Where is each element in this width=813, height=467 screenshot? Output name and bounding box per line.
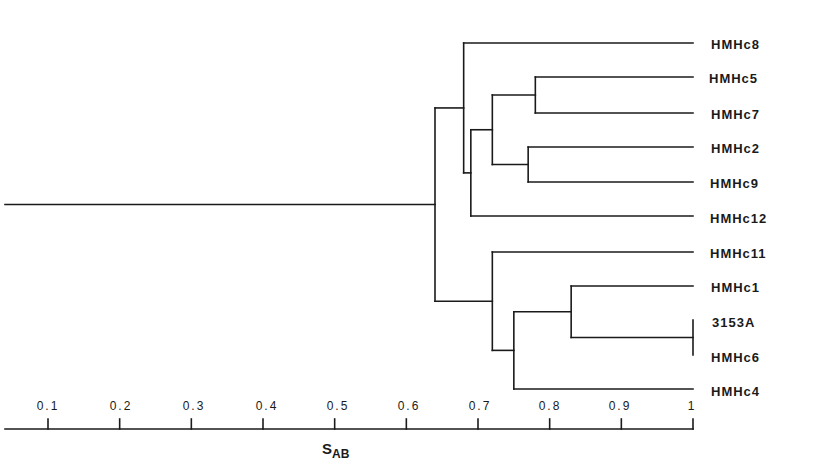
tick-label-0.4: 0.4 (256, 399, 279, 413)
leaf-label-3153a: 3153A (712, 315, 755, 330)
leaf-label-hmhc8: HMHc8 (711, 37, 760, 52)
tick-label-0.5: 0.5 (327, 399, 350, 413)
tick-label-1: 1 (688, 399, 697, 413)
x-axis-title-subscript: AB (332, 447, 349, 461)
tick-label-0.8: 0.8 (539, 399, 562, 413)
leaf-label-hmhc4: HMHc4 (711, 384, 760, 399)
dendrogram-tree (0, 0, 813, 467)
leaf-label-hmhc6: HMHc6 (711, 350, 760, 365)
leaf-label-hmhc9: HMHc9 (710, 176, 759, 191)
leaf-label-hmhc5: HMHc5 (709, 71, 758, 86)
dendrogram-chart: 0.1 0.2 0.3 0.4 0.5 0.6 0.7 0.8 0.9 1 HM… (0, 0, 813, 467)
x-axis-title-main: S (322, 440, 332, 457)
x-axis-title: SAB (322, 440, 349, 461)
tick-label-0.2: 0.2 (110, 399, 133, 413)
tick-label-0.9: 0.9 (609, 399, 632, 413)
leaf-label-hmhc1: HMHc1 (711, 280, 760, 295)
leaf-label-hmhc12: HMHc12 (710, 211, 767, 226)
tick-label-0.3: 0.3 (183, 399, 206, 413)
leaf-label-hmhc11: HMHc11 (710, 246, 767, 261)
leaf-label-hmhc2: HMHc2 (711, 141, 760, 156)
tick-label-0.7: 0.7 (469, 399, 492, 413)
tick-label-0.1: 0.1 (37, 399, 60, 413)
tick-label-0.6: 0.6 (398, 399, 421, 413)
leaf-label-hmhc7: HMHc7 (711, 107, 760, 122)
